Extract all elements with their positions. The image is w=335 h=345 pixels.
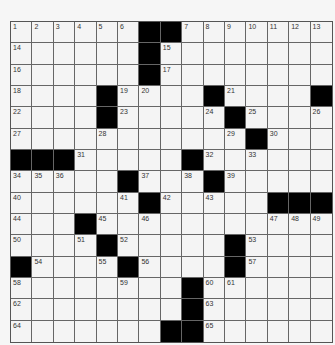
grid-cell[interactable]: 46 [139,214,160,235]
grid-cell[interactable] [268,171,289,192]
grid-cell[interactable]: 59 [118,278,139,299]
grid-cell[interactable] [54,278,75,299]
grid-cell[interactable] [118,129,139,150]
grid-cell[interactable] [118,150,139,171]
grid-cell[interactable] [75,129,96,150]
grid-cell[interactable] [97,299,118,320]
grid-cell[interactable] [32,43,53,64]
grid-cell[interactable] [32,193,53,214]
grid-cell[interactable] [118,43,139,64]
grid-cell[interactable] [118,214,139,235]
grid-cell[interactable]: 27 [11,129,32,150]
grid-cell[interactable]: 17 [161,65,182,86]
grid-cell[interactable]: 14 [11,43,32,64]
grid-cell[interactable] [289,65,310,86]
grid-cell[interactable] [97,321,118,342]
grid-cell[interactable] [289,107,310,128]
grid-cell[interactable] [32,129,53,150]
grid-cell[interactable] [54,214,75,235]
grid-cell[interactable] [204,214,225,235]
grid-cell[interactable] [246,278,267,299]
grid-cell[interactable] [161,278,182,299]
grid-cell[interactable] [268,235,289,256]
grid-cell[interactable] [32,299,53,320]
grid-cell[interactable] [289,150,310,171]
grid-cell[interactable] [54,129,75,150]
grid-cell[interactable] [182,214,203,235]
grid-cell[interactable]: 4 [75,22,96,43]
grid-cell[interactable] [182,65,203,86]
grid-cell[interactable] [268,43,289,64]
grid-cell[interactable]: 39 [225,171,246,192]
grid-cell[interactable] [182,129,203,150]
grid-cell[interactable] [75,43,96,64]
grid-cell[interactable] [32,86,53,107]
grid-cell[interactable] [97,150,118,171]
grid-cell[interactable] [139,150,160,171]
grid-cell[interactable]: 55 [97,257,118,278]
grid-cell[interactable]: 32 [204,150,225,171]
grid-cell[interactable] [54,107,75,128]
grid-cell[interactable]: 61 [225,278,246,299]
grid-cell[interactable]: 58 [11,278,32,299]
grid-cell[interactable] [54,43,75,64]
grid-cell[interactable]: 56 [139,257,160,278]
grid-cell[interactable] [161,129,182,150]
grid-cell[interactable] [139,278,160,299]
grid-cell[interactable] [182,43,203,64]
grid-cell[interactable]: 29 [225,129,246,150]
grid-cell[interactable] [32,235,53,256]
grid-cell[interactable]: 60 [204,278,225,299]
grid-cell[interactable] [311,257,332,278]
grid-cell[interactable] [75,193,96,214]
grid-cell[interactable]: 25 [246,107,267,128]
grid-cell[interactable]: 63 [204,299,225,320]
grid-cell[interactable] [75,321,96,342]
grid-cell[interactable] [54,257,75,278]
grid-cell[interactable]: 15 [161,43,182,64]
grid-cell[interactable] [32,214,53,235]
grid-cell[interactable] [268,278,289,299]
grid-cell[interactable] [225,193,246,214]
grid-cell[interactable]: 7 [182,22,203,43]
grid-cell[interactable] [204,65,225,86]
grid-cell[interactable]: 16 [11,65,32,86]
grid-cell[interactable] [161,257,182,278]
grid-cell[interactable] [54,235,75,256]
grid-cell[interactable] [75,107,96,128]
grid-cell[interactable] [54,321,75,342]
grid-cell[interactable]: 31 [75,150,96,171]
grid-cell[interactable]: 28 [97,129,118,150]
grid-cell[interactable]: 47 [268,214,289,235]
grid-cell[interactable] [97,171,118,192]
grid-cell[interactable]: 49 [311,214,332,235]
grid-cell[interactable] [311,150,332,171]
grid-cell[interactable] [289,86,310,107]
grid-cell[interactable] [289,278,310,299]
grid-cell[interactable]: 11 [268,22,289,43]
grid-cell[interactable] [268,65,289,86]
grid-cell[interactable] [289,321,310,342]
grid-cell[interactable] [289,171,310,192]
grid-cell[interactable]: 64 [11,321,32,342]
grid-cell[interactable] [75,171,96,192]
grid-cell[interactable] [225,65,246,86]
grid-cell[interactable] [289,257,310,278]
grid-cell[interactable] [225,321,246,342]
grid-cell[interactable] [182,107,203,128]
grid-cell[interactable] [182,86,203,107]
grid-cell[interactable] [311,65,332,86]
grid-cell[interactable] [204,235,225,256]
grid-cell[interactable] [246,86,267,107]
grid-cell[interactable]: 42 [161,193,182,214]
grid-cell[interactable]: 50 [11,235,32,256]
grid-cell[interactable] [311,43,332,64]
grid-cell[interactable] [161,214,182,235]
grid-cell[interactable] [161,107,182,128]
grid-cell[interactable]: 22 [11,107,32,128]
grid-cell[interactable] [246,193,267,214]
grid-cell[interactable]: 37 [139,171,160,192]
grid-cell[interactable]: 30 [268,129,289,150]
grid-cell[interactable] [54,86,75,107]
grid-cell[interactable] [204,257,225,278]
